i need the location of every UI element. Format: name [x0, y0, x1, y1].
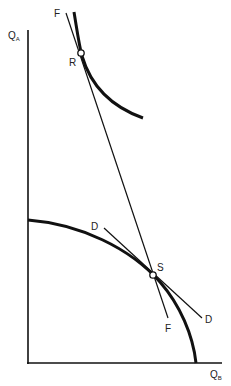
- diagram-canvas: QA QB F R D S F D: [0, 0, 231, 386]
- label-f-top: F: [54, 8, 60, 19]
- x-axis-label: QB: [210, 369, 222, 381]
- label-s: S: [157, 262, 164, 273]
- label-d-left: D: [91, 221, 98, 232]
- indifference-curve: [74, 12, 143, 118]
- production-possibility-frontier: [28, 220, 196, 363]
- label-d-right: D: [205, 314, 212, 325]
- label-r: R: [69, 57, 76, 68]
- point-s: [150, 272, 156, 278]
- point-r: [78, 50, 84, 56]
- label-f-bottom: F: [165, 323, 171, 334]
- y-axis-label: QA: [8, 30, 20, 42]
